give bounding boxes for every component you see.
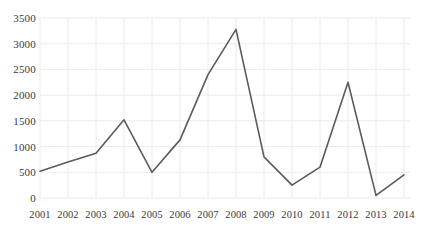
x-axis-tick-label: 2005 (141, 210, 162, 221)
x-axis-tick-label: 2012 (337, 210, 358, 221)
x-axis-tick-label: 2003 (85, 210, 106, 221)
x-axis-tick-label: 2013 (365, 210, 386, 221)
x-axis-tick-label: 2011 (309, 210, 330, 221)
x-axis-tick-label: 2002 (57, 210, 78, 221)
x-axis-tick-label: 2004 (113, 210, 134, 221)
x-axis-tick-label: 2007 (197, 210, 218, 221)
line-chart: 0500100015002000250030003500 20012002200… (0, 0, 426, 230)
x-axis-tick-label: 2014 (393, 210, 414, 221)
x-axis-tick-label: 2006 (169, 210, 190, 221)
x-axis-tick-label: 2009 (253, 210, 274, 221)
x-axis-tick-label: 2001 (29, 210, 50, 221)
x-axis-tick-label: 2008 (225, 210, 246, 221)
x-axis-tick-label: 2010 (281, 210, 302, 221)
x-axis: 2001200220032004200520062007200820092010… (0, 0, 426, 230)
